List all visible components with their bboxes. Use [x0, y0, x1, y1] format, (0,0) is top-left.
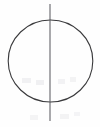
noise-mark	[60, 114, 69, 119]
noise-mark	[36, 80, 44, 85]
noise-mark	[22, 78, 31, 83]
noise-mark	[58, 79, 65, 84]
noise-mark	[70, 77, 76, 82]
noise-mark	[74, 112, 80, 116]
circle-vertical-line-figure	[0, 0, 100, 127]
diagram-canvas: Circle with vertical diameter line A han…	[0, 0, 100, 127]
noise-mark	[30, 115, 38, 120]
